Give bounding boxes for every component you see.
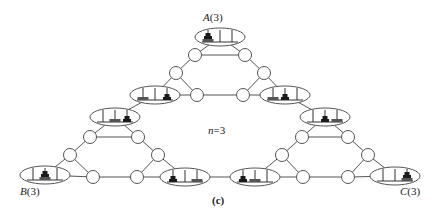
disk — [41, 174, 49, 177]
state-node — [189, 49, 202, 62]
disk — [206, 33, 211, 36]
disk — [239, 179, 247, 182]
state-node — [342, 171, 355, 184]
state-ellipse-mr — [300, 108, 350, 126]
n-label: n=3 — [208, 125, 225, 136]
disk — [281, 97, 289, 100]
state-node — [237, 89, 250, 102]
disk — [125, 116, 130, 119]
disk — [163, 97, 171, 100]
state-ellipse-B — [20, 166, 70, 184]
state-node — [191, 89, 204, 102]
state-node — [258, 67, 271, 80]
state-ellipse-A — [195, 28, 245, 46]
label-B: B(3) — [20, 186, 40, 197]
state-node — [276, 149, 289, 162]
disk — [40, 177, 51, 180]
state-node — [152, 149, 165, 162]
state-node — [64, 149, 77, 162]
state-ellipse-C — [370, 167, 420, 185]
disk — [203, 39, 214, 42]
disk — [123, 119, 131, 122]
state-node — [297, 171, 310, 184]
figure-caption: (c) — [212, 195, 224, 206]
disk — [192, 179, 203, 182]
disk — [241, 176, 246, 179]
hanoi-graph-figure: A(3) B(3) C(3) n=3 (c) — [0, 0, 440, 219]
state-ellipse-br — [230, 168, 280, 186]
disk — [332, 119, 343, 122]
state-graph — [0, 0, 440, 219]
state-ellipse-bl — [160, 168, 210, 186]
state-node — [362, 149, 375, 162]
state-node — [87, 171, 100, 184]
state-ellipse-ur — [260, 86, 310, 104]
state-node — [170, 67, 183, 80]
state-node — [342, 131, 355, 144]
state-node — [132, 131, 145, 144]
label-A: A(3) — [203, 12, 223, 23]
disk — [204, 36, 212, 39]
disk — [323, 116, 328, 119]
disk — [403, 175, 411, 178]
edges — [45, 37, 395, 177]
state-node — [84, 131, 97, 144]
disk — [321, 119, 329, 122]
disk — [138, 97, 149, 100]
disk — [250, 179, 261, 182]
disk — [268, 97, 279, 100]
state-node — [131, 171, 144, 184]
state-node — [239, 49, 252, 62]
disk — [110, 119, 121, 122]
state-ellipse-ml — [90, 108, 140, 126]
disk — [165, 94, 170, 97]
disk — [405, 172, 410, 175]
state-node — [296, 131, 309, 144]
disk — [283, 94, 288, 97]
disk — [43, 171, 48, 174]
disk — [169, 179, 177, 182]
label-C: C(3) — [400, 186, 420, 197]
state-ellipse-ul — [130, 86, 180, 104]
disk — [171, 176, 176, 179]
disk — [402, 178, 413, 181]
